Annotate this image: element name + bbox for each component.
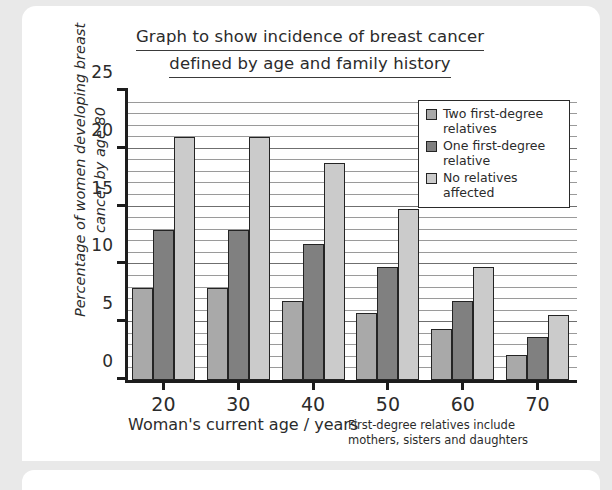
legend-swatch-icon [426, 141, 437, 152]
x-axis-tick-label: 50 [376, 393, 400, 415]
bar-30-series-1 [207, 288, 228, 380]
chart-legend: Two first-degree relativesOne first-degr… [418, 100, 570, 208]
y-axis-tick [117, 146, 128, 149]
legend-swatch-icon [426, 173, 437, 184]
y-axis-tick [117, 204, 128, 207]
chart-title-line-1: Graph to show incidence of breast cancer [136, 24, 484, 51]
x-axis-tick [536, 380, 539, 390]
y-axis-tick-label: 15 [91, 178, 113, 198]
bar-40-series-2 [303, 244, 324, 380]
legend-swatch-icon [426, 109, 437, 120]
legend-label: One first-degree relative [443, 139, 562, 168]
bar-20-series-1 [132, 288, 153, 380]
x-axis-tick-label: 60 [451, 393, 475, 415]
bar-40-series-3 [324, 163, 345, 380]
bar-70-series-2 [527, 337, 548, 380]
legend-item-3: No relatives affected [426, 171, 562, 200]
legend-item-1: Two first-degree relatives [426, 107, 562, 136]
legend-label: No relatives affected [443, 171, 562, 200]
next-card-edge [22, 470, 600, 490]
chart-title: Graph to show incidence of breast cancer… [100, 24, 520, 78]
bar-40-series-1 [282, 301, 303, 380]
chart-title-line-2: defined by age and family history [169, 51, 450, 78]
bar-30-series-3 [249, 137, 270, 380]
bar-group-40 [282, 91, 345, 380]
bar-group-30 [207, 91, 270, 380]
x-axis-tick [386, 380, 389, 390]
y-axis-tick [117, 88, 128, 91]
bar-50-series-2 [377, 267, 398, 380]
bar-50-series-1 [356, 313, 377, 380]
y-axis-tick-label: 10 [91, 235, 113, 255]
x-axis-tick [162, 380, 165, 390]
x-axis-tick-label: 70 [525, 393, 549, 415]
bar-group-20 [132, 91, 195, 380]
x-axis-tick [461, 380, 464, 390]
bar-20-series-3 [174, 137, 195, 380]
figure-page: Graph to show incidence of breast cancer… [0, 0, 612, 490]
footnote-line-1: First-degree relatives include [348, 418, 515, 432]
bar-group-50 [356, 91, 419, 380]
x-axis-tick-label: 40 [301, 393, 325, 415]
bar-70-series-3 [548, 315, 569, 380]
x-axis-tick-label: 30 [226, 393, 250, 415]
y-axis-tick [117, 319, 128, 322]
x-axis-tick [237, 380, 240, 390]
bar-50-series-3 [398, 209, 419, 380]
x-axis-tick-label: 20 [151, 393, 175, 415]
y-axis-tick [117, 377, 128, 380]
bar-20-series-2 [153, 230, 174, 380]
footnote: First-degree relatives include mothers, … [348, 418, 578, 448]
bar-70-series-1 [506, 355, 527, 380]
bar-60-series-1 [431, 329, 452, 380]
bar-30-series-2 [228, 230, 249, 380]
legend-item-2: One first-degree relative [426, 139, 562, 168]
x-axis-tick [312, 380, 315, 390]
y-axis-tick-label: 5 [102, 293, 113, 313]
legend-label: Two first-degree relatives [443, 107, 562, 136]
y-axis-tick-label: 20 [91, 120, 113, 140]
y-axis-tick [117, 261, 128, 264]
y-axis-tick-label: 25 [91, 62, 113, 82]
footnote-line-2: mothers, sisters and daughters [348, 433, 528, 447]
bar-60-series-3 [473, 267, 494, 380]
x-axis-title: Woman's current age / years [128, 415, 358, 434]
bar-60-series-2 [452, 301, 473, 380]
y-axis-tick-label: 0 [102, 351, 113, 371]
